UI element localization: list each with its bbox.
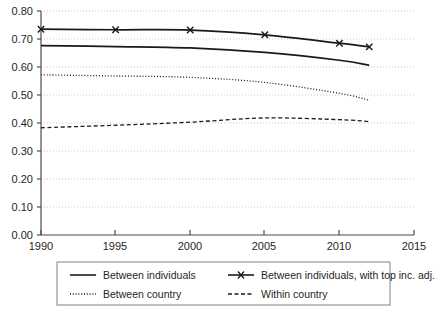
- y-tick-label: 0.70: [12, 33, 33, 45]
- x-tick-label: 2005: [252, 240, 276, 252]
- y-tick-labels: 0.80 0.70 0.60 0.50 0.40 0.30 0.20 0.10 …: [12, 5, 33, 241]
- x-tick-label: 2015: [402, 240, 426, 252]
- legend-label: Between country: [103, 288, 182, 300]
- y-tick-label: 0.50: [12, 89, 33, 101]
- y-tick-label: 0.10: [12, 201, 33, 213]
- x-tick-label: 2010: [327, 240, 351, 252]
- y-tick-label: 0.80: [12, 5, 33, 17]
- chart-figure: 0.80 0.70 0.60 0.50 0.40 0.30 0.20 0.10 …: [0, 0, 440, 313]
- x-tick-label: 1990: [29, 240, 53, 252]
- legend-label: Between individuals: [103, 269, 196, 281]
- y-tick-label: 0.60: [12, 61, 33, 73]
- x-tick-label: 2000: [178, 240, 202, 252]
- line-chart: 0.80 0.70 0.60 0.50 0.40 0.30 0.20 0.10 …: [0, 0, 440, 313]
- y-tick-label: 0.20: [12, 173, 33, 185]
- chart-background: [0, 0, 440, 313]
- legend-label: Within country: [261, 288, 328, 300]
- x-tick-label: 1995: [103, 240, 127, 252]
- y-tick-label: 0.30: [12, 145, 33, 157]
- y-tick-label: 0.40: [12, 117, 33, 129]
- legend-label: Between individuals, with top inc. adj.: [261, 269, 435, 281]
